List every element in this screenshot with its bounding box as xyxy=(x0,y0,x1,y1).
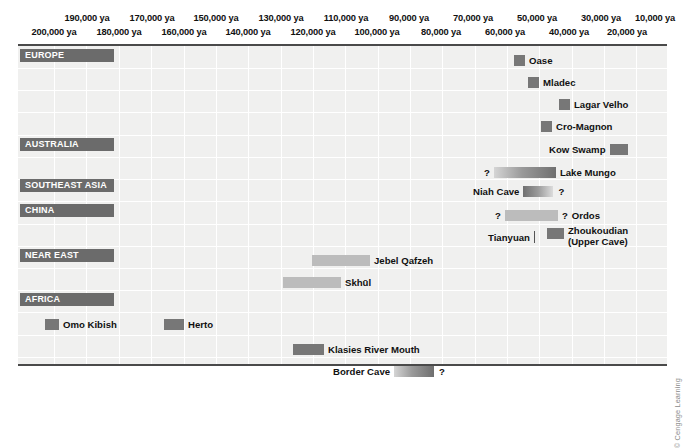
gridline xyxy=(151,46,152,364)
gridline xyxy=(507,46,508,364)
site-bar-lagar-velho xyxy=(559,99,570,110)
axis-tick-170000: 170,000 ya xyxy=(129,13,174,23)
axis-tick-90000: 90,000 ya xyxy=(389,13,429,23)
site-label-border-cave: Border Cave xyxy=(333,366,390,377)
site-label-cro-magnon: Cro-Magnon xyxy=(556,121,613,132)
site-bar-niah-cave xyxy=(523,186,553,197)
axis-tick-110000: 110,000 ya xyxy=(324,13,369,23)
site-bar-omo-kibish xyxy=(45,319,59,330)
band-separator xyxy=(18,157,667,158)
axis-tick-200000: 200,000 ya xyxy=(31,27,76,37)
band-separator xyxy=(18,135,667,136)
site-label-omo-kibish: Omo Kibish xyxy=(63,319,117,330)
region-tab-near-east: NEAR EAST xyxy=(20,249,114,262)
copyright-credit: © Cengage Learning xyxy=(673,378,682,448)
band-separator xyxy=(18,90,667,91)
uncertain-marker-niah-cave-end: ? xyxy=(558,186,564,197)
axis-tick-10000: 10,000 ya xyxy=(635,13,675,23)
gridline xyxy=(345,46,346,364)
axis-tick-130000: 130,000 ya xyxy=(258,13,303,23)
site-bar-klasies-river-mouth xyxy=(293,344,324,355)
uncertain-marker-ordos-start: ? xyxy=(495,210,501,221)
axis-tick-80000: 80,000 ya xyxy=(421,27,461,37)
site-label-zhoukoudian: Zhoukoudian(Upper Cave) xyxy=(568,226,642,247)
site-bar-skhul xyxy=(283,277,341,288)
axis-tick-30000: 30,000 ya xyxy=(581,13,621,23)
site-label-skhul: Skhūl xyxy=(345,277,371,288)
gridline xyxy=(248,46,249,364)
gridline xyxy=(378,46,379,364)
gridline xyxy=(572,46,573,364)
site-entry-ordos: ? ? Ordos xyxy=(495,208,600,222)
gridline xyxy=(410,46,411,364)
gridline xyxy=(119,46,120,364)
gridline xyxy=(313,46,314,364)
band-separator xyxy=(18,68,667,69)
uncertain-marker-ordos-end: ? xyxy=(562,210,568,221)
region-tab-southeast-asia: SOUTHEAST ASIA xyxy=(20,179,114,192)
axis-tick-20000: 20,000 ya xyxy=(607,27,647,37)
site-label-jebel-qafzeh: Jebel Qafzeh xyxy=(374,255,433,266)
site-label-niah-cave: Niah Cave xyxy=(473,186,519,197)
uncertain-marker-border-cave-end: ? xyxy=(439,366,445,377)
site-label-klasies-river-mouth: Klasies River Mouth xyxy=(328,344,420,355)
site-entry-tianyuan: Tianyuan xyxy=(488,230,535,244)
gridline xyxy=(636,46,637,364)
site-bar-cro-magnon xyxy=(541,121,552,132)
axis-tick-190000: 190,000 ya xyxy=(64,13,109,23)
site-label-lake-mungo: Lake Mungo xyxy=(560,167,616,178)
region-tab-africa: AFRICA xyxy=(20,293,114,306)
axis-tick-120000: 120,000 ya xyxy=(290,27,335,37)
site-entry-border-cave: Border Cave ? xyxy=(333,364,445,378)
site-entry-zhoukoudian: Zhoukoudian(Upper Cave) xyxy=(547,226,642,240)
site-entry-klasies-river-mouth: Klasies River Mouth xyxy=(293,342,420,356)
site-bar-oase xyxy=(514,55,525,66)
site-bar-mladec xyxy=(528,77,539,88)
site-bar-jebel-qafzeh xyxy=(312,255,370,266)
site-bar-herto xyxy=(164,319,184,330)
axis-labels: 190,000 ya 170,000 ya 150,000 ya 130,000… xyxy=(0,0,685,44)
axis-tick-100000: 100,000 ya xyxy=(354,27,399,37)
gridline xyxy=(475,46,476,364)
site-label-kow-swamp: Kow Swamp xyxy=(549,144,606,155)
band-separator xyxy=(18,335,667,336)
site-bar-border-cave xyxy=(394,366,434,377)
axis-tick-160000: 160,000 ya xyxy=(161,27,206,37)
axis-tick-150000: 150,000 ya xyxy=(193,13,238,23)
site-label-herto: Herto xyxy=(188,319,213,330)
gridline xyxy=(604,46,605,364)
site-entry-mladec: Mladec xyxy=(528,75,576,89)
site-label-mladec: Mladec xyxy=(543,77,576,88)
copyright-credit-wrap: © Cengage Learning xyxy=(673,294,683,384)
site-label-zhoukoudian-line1: Zhoukoudian xyxy=(568,225,628,236)
site-bar-tianyuan xyxy=(534,231,536,243)
axis-tick-60000: 60,000 ya xyxy=(485,27,525,37)
region-tab-china: CHINA xyxy=(20,204,114,217)
axis-tick-140000: 140,000 ya xyxy=(225,27,270,37)
axis-tick-40000: 40,000 ya xyxy=(549,27,589,37)
site-entry-niah-cave: Niah Cave ? xyxy=(473,184,564,198)
site-entry-cro-magnon: Cro-Magnon xyxy=(541,119,613,133)
band-separator xyxy=(18,312,667,313)
site-label-ordos: Ordos xyxy=(572,210,600,221)
gridline xyxy=(442,46,443,364)
site-bar-kow-swamp xyxy=(610,144,628,155)
band-separator xyxy=(18,290,667,291)
uncertain-marker-lake-mungo-start: ? xyxy=(484,167,490,178)
site-entry-omo-kibish: Omo Kibish xyxy=(45,317,117,331)
band-separator xyxy=(18,112,667,113)
site-label-lagar-velho: Lagar Velho xyxy=(574,99,628,110)
region-tab-australia: AUSTRALIA xyxy=(20,138,114,151)
site-label-zhoukoudian-line2: (Upper Cave) xyxy=(568,236,628,247)
axis-tick-180000: 180,000 ya xyxy=(96,27,141,37)
axis-tick-50000: 50,000 ya xyxy=(517,13,557,23)
site-entry-kow-swamp: Kow Swamp xyxy=(549,142,628,156)
site-bar-ordos xyxy=(505,210,558,221)
band-separator xyxy=(18,201,667,202)
site-entry-herto: Herto xyxy=(164,317,213,331)
gridline xyxy=(539,46,540,364)
site-entry-lagar-velho: Lagar Velho xyxy=(559,97,628,111)
gridline xyxy=(281,46,282,364)
site-bar-lake-mungo xyxy=(494,167,556,178)
